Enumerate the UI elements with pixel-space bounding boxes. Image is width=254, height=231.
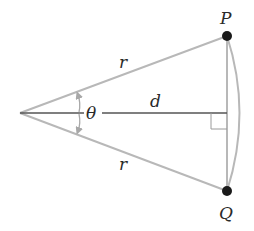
label-p: P — [219, 8, 232, 28]
label-d: d — [150, 91, 161, 111]
sector-diagram: P Q r r d θ — [0, 0, 254, 231]
lower-radius-line — [20, 113, 227, 191]
angle-arrow-up-icon — [78, 95, 80, 112]
label-q: Q — [219, 203, 233, 223]
upper-radius-line — [20, 36, 227, 113]
angle-arrow-down-icon — [78, 114, 80, 131]
point-q — [222, 186, 232, 196]
point-p — [222, 31, 232, 41]
label-r-upper: r — [119, 52, 128, 72]
right-angle-marker — [211, 113, 227, 129]
label-r-lower: r — [119, 154, 128, 174]
arc — [227, 36, 240, 191]
label-theta: θ — [86, 103, 96, 123]
